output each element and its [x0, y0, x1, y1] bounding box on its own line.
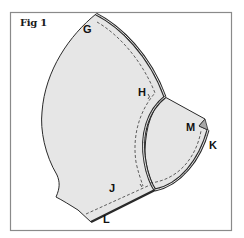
label-g: G — [83, 24, 92, 35]
label-h: H — [138, 87, 146, 98]
figure-title: Fig 1 — [20, 17, 47, 28]
label-j: J — [109, 183, 115, 194]
label-l: L — [103, 214, 110, 225]
label-k: K — [209, 140, 217, 151]
pattern-diagram — [0, 0, 244, 238]
figure-1: Fig 1 G H M K J L — [0, 0, 244, 238]
label-m: M — [186, 122, 195, 133]
